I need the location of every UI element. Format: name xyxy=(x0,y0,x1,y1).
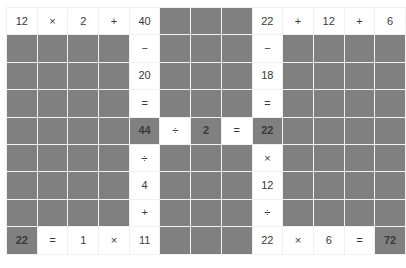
puzzle-cell-blank xyxy=(68,172,99,199)
puzzle-cell-operator[interactable]: + xyxy=(129,199,160,226)
puzzle-cell-blank xyxy=(221,62,252,89)
puzzle-cell-number[interactable]: 22 xyxy=(252,117,283,144)
puzzle-cell-operator[interactable]: × xyxy=(99,227,130,254)
puzzle-cell-operator[interactable]: + xyxy=(344,8,375,35)
puzzle-cell-blank xyxy=(221,199,252,226)
puzzle-cell-operator[interactable]: × xyxy=(37,8,68,35)
puzzle-cell-blank xyxy=(160,62,191,89)
puzzle-cell-blank xyxy=(344,199,375,226)
puzzle-cell-operator[interactable]: ÷ xyxy=(252,199,283,226)
puzzle-cell-operator[interactable]: = xyxy=(221,117,252,144)
puzzle-cell-blank xyxy=(99,117,130,144)
puzzle-cell-number[interactable]: 6 xyxy=(375,8,406,35)
puzzle-cell-blank xyxy=(68,144,99,171)
puzzle-cell-blank xyxy=(221,90,252,117)
puzzle-cell-operator[interactable]: = xyxy=(344,227,375,254)
puzzle-cell-blank xyxy=(7,144,38,171)
puzzle-cell-operator[interactable]: = xyxy=(129,90,160,117)
puzzle-cell-blank xyxy=(7,35,38,62)
puzzle-row: 412 xyxy=(7,172,406,199)
puzzle-cell-blank xyxy=(99,172,130,199)
puzzle-cell-blank xyxy=(160,199,191,226)
puzzle-cell-blank xyxy=(160,35,191,62)
puzzle-cell-blank xyxy=(160,90,191,117)
puzzle-grid: 12×2+4022+12+6−−2018==44÷2=22÷×412+÷22=1… xyxy=(6,7,406,255)
puzzle-cell-blank xyxy=(283,172,314,199)
puzzle-cell-blank xyxy=(344,144,375,171)
puzzle-cell-operator[interactable]: × xyxy=(283,227,314,254)
puzzle-cell-blank xyxy=(37,172,68,199)
puzzle-cell-blank xyxy=(191,8,222,35)
puzzle-cell-blank xyxy=(191,144,222,171)
puzzle-cell-blank xyxy=(283,117,314,144)
puzzle-cell-blank xyxy=(283,144,314,171)
puzzle-cell-number[interactable]: 4 xyxy=(129,172,160,199)
puzzle-cell-blank xyxy=(7,90,38,117)
puzzle-cell-number[interactable]: 2 xyxy=(68,8,99,35)
puzzle-cell-blank xyxy=(37,117,68,144)
puzzle-cell-blank xyxy=(99,199,130,226)
puzzle-row: == xyxy=(7,90,406,117)
puzzle-cell-operator[interactable]: = xyxy=(37,227,68,254)
puzzle-cell-blank xyxy=(191,199,222,226)
puzzle-cell-number[interactable]: 1 xyxy=(68,227,99,254)
puzzle-cell-number[interactable]: 20 xyxy=(129,62,160,89)
puzzle-cell-blank xyxy=(99,35,130,62)
puzzle-cell-blank xyxy=(283,199,314,226)
puzzle-cell-blank xyxy=(283,90,314,117)
puzzle-cell-number[interactable]: 72 xyxy=(375,227,406,254)
puzzle-cell-blank xyxy=(191,172,222,199)
puzzle-cell-number[interactable]: 11 xyxy=(129,227,160,254)
puzzle-cell-number[interactable]: 6 xyxy=(313,227,344,254)
puzzle-cell-operator[interactable]: ÷ xyxy=(129,144,160,171)
puzzle-cell-number[interactable]: 40 xyxy=(129,8,160,35)
puzzle-cell-blank xyxy=(191,227,222,254)
puzzle-cell-blank xyxy=(344,90,375,117)
puzzle-cell-blank xyxy=(375,144,406,171)
puzzle-cell-blank xyxy=(37,62,68,89)
puzzle-cell-blank xyxy=(313,90,344,117)
puzzle-cell-blank xyxy=(375,199,406,226)
puzzle-cell-operator[interactable]: + xyxy=(283,8,314,35)
puzzle-grid-body: 12×2+4022+12+6−−2018==44÷2=22÷×412+÷22=1… xyxy=(7,8,406,255)
puzzle-cell-blank xyxy=(7,172,38,199)
puzzle-row: +÷ xyxy=(7,199,406,226)
puzzle-cell-blank xyxy=(344,172,375,199)
puzzle-cell-blank xyxy=(7,62,38,89)
puzzle-cell-blank xyxy=(7,199,38,226)
puzzle-cell-operator[interactable]: − xyxy=(129,35,160,62)
puzzle-cell-number[interactable]: 12 xyxy=(7,8,38,35)
puzzle-cell-blank xyxy=(375,35,406,62)
puzzle-cell-blank xyxy=(221,35,252,62)
puzzle-cell-blank xyxy=(68,117,99,144)
puzzle-cell-operator[interactable]: ÷ xyxy=(160,117,191,144)
puzzle-cell-blank xyxy=(160,227,191,254)
puzzle-cell-operator[interactable]: × xyxy=(252,144,283,171)
puzzle-cell-number[interactable]: 12 xyxy=(252,172,283,199)
puzzle-cell-operator[interactable]: − xyxy=(252,35,283,62)
puzzle-cell-blank xyxy=(344,35,375,62)
puzzle-cell-blank xyxy=(221,8,252,35)
puzzle-cell-operator[interactable]: = xyxy=(252,90,283,117)
puzzle-cell-number[interactable]: 22 xyxy=(7,227,38,254)
puzzle-cell-blank xyxy=(375,172,406,199)
puzzle-cell-blank xyxy=(344,62,375,89)
puzzle-cell-operator[interactable]: + xyxy=(99,8,130,35)
puzzle-cell-blank xyxy=(160,8,191,35)
puzzle-cell-blank xyxy=(221,144,252,171)
puzzle-cell-blank xyxy=(99,90,130,117)
puzzle-cell-number[interactable]: 22 xyxy=(252,227,283,254)
puzzle-cell-blank xyxy=(344,117,375,144)
puzzle-cell-number[interactable]: 22 xyxy=(252,8,283,35)
puzzle-cell-number[interactable]: 44 xyxy=(129,117,160,144)
puzzle-cell-blank xyxy=(191,62,222,89)
puzzle-row: −− xyxy=(7,35,406,62)
puzzle-cell-blank xyxy=(313,199,344,226)
puzzle-cell-number[interactable]: 12 xyxy=(313,8,344,35)
puzzle-cell-blank xyxy=(375,117,406,144)
puzzle-cell-blank xyxy=(313,144,344,171)
puzzle-cell-number[interactable]: 2 xyxy=(191,117,222,144)
math-crossword-puzzle: 12×2+4022+12+6−−2018==44÷2=22÷×412+÷22=1… xyxy=(6,7,344,254)
puzzle-cell-blank xyxy=(37,199,68,226)
puzzle-cell-number[interactable]: 18 xyxy=(252,62,283,89)
